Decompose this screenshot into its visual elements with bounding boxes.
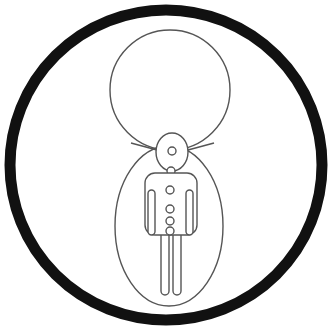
figure-button-3: [166, 217, 174, 225]
figure-left-leg: [161, 231, 169, 295]
head-inner-dot: [168, 147, 176, 155]
figure-button-1: [166, 186, 174, 194]
figure-right-leg: [173, 231, 181, 295]
figure-right-arm: [186, 190, 193, 235]
line-drawing-illustration: [0, 0, 334, 333]
figure-button-4: [166, 227, 174, 235]
figure-button-group: [166, 186, 174, 235]
drawing-canvas: [0, 0, 334, 333]
large-thin-circle: [110, 30, 230, 150]
figure-left-arm: [148, 190, 155, 235]
figure-button-2: [166, 205, 174, 213]
